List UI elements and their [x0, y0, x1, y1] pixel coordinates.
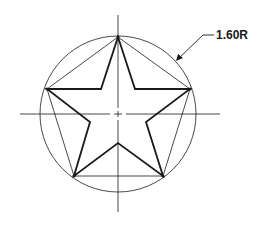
- star-construction-diagram: 1.60R: [0, 0, 263, 228]
- radius-dimension-label: 1.60R: [216, 28, 248, 42]
- radius-leader: [178, 35, 214, 59]
- vertex-points: [45, 35, 191, 177]
- five-point-star: [47, 37, 190, 176]
